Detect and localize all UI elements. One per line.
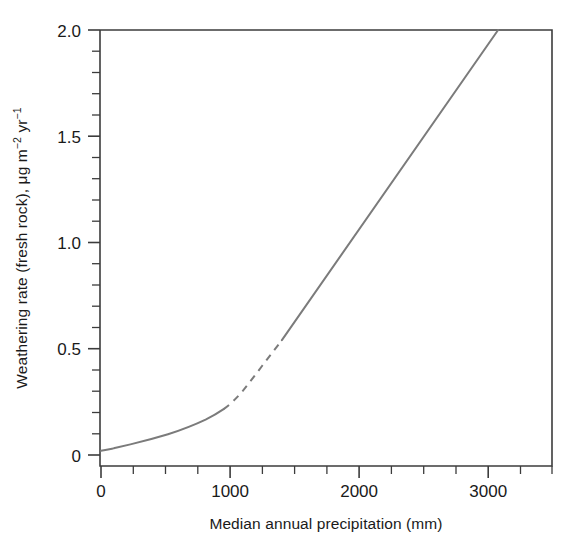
series-segment-solid-upper xyxy=(282,30,498,340)
x-tick-label-1: 1000 xyxy=(211,482,249,501)
y-tick-label-2: 1.0 xyxy=(57,234,81,253)
line-chart-svg: 0 0.5 1.0 1.5 2.0 0 1000 2000 3000 Media… xyxy=(0,0,571,549)
y-axis-tick-labels: 0 0.5 1.0 1.5 2.0 xyxy=(57,22,81,466)
series-segment-solid-lower xyxy=(101,409,224,451)
plot-frame xyxy=(100,30,552,466)
chart-figure: 0 0.5 1.0 1.5 2.0 0 1000 2000 3000 Media… xyxy=(0,0,571,549)
x-axis-tick-labels: 0 1000 2000 3000 xyxy=(96,482,507,501)
y-axis-title: Weathering rate (fresh rock), μg m−2 yr−… xyxy=(11,107,30,388)
y-axis-title-main: Weathering rate (fresh rock), μg m xyxy=(13,149,30,388)
x-axis-minor-ticks xyxy=(133,466,552,474)
y-tick-label-1: 0.5 xyxy=(57,340,81,359)
x-tick-label-3: 3000 xyxy=(469,482,507,501)
x-axis-title: Median annual precipitation (mm) xyxy=(209,515,442,532)
y-axis-title-exponent-2: −1 xyxy=(11,107,23,119)
svg-text:Weathering rate (fresh rock),: Weathering rate (fresh rock), μg m−2 yr−… xyxy=(11,107,30,388)
y-axis-title-exponent-1: −2 xyxy=(11,137,23,149)
data-series-weathering-rate xyxy=(101,30,498,451)
y-axis-title-mid: yr xyxy=(13,120,30,138)
x-tick-label-2: 2000 xyxy=(340,482,378,501)
y-tick-label-4: 2.0 xyxy=(57,22,81,41)
y-tick-label-0: 0 xyxy=(72,447,81,466)
series-segment-dashed-transition xyxy=(224,340,282,409)
x-tick-label-0: 0 xyxy=(96,482,105,501)
y-tick-label-3: 1.5 xyxy=(57,128,81,147)
